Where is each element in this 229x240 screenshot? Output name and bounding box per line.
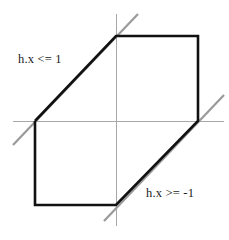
lower-constraint-line (104, 95, 224, 221)
lower-constraint-label: h.x >= -1 (146, 186, 194, 201)
upper-constraint-label: h.x <= 1 (18, 52, 62, 67)
figure-canvas (0, 0, 229, 240)
constraint-region-figure: h.x <= 1 h.x >= -1 (0, 0, 229, 240)
